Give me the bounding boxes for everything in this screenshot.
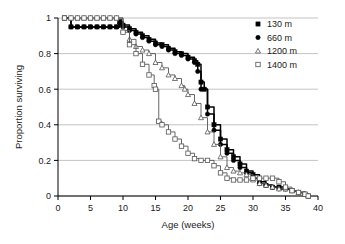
legend-marker-filled-square	[256, 22, 260, 26]
data-point	[199, 158, 203, 162]
legend-marker-filled-circle	[256, 35, 260, 39]
data-point	[88, 25, 92, 29]
legend-label: 1200 m	[267, 46, 297, 56]
data-point	[153, 43, 157, 47]
data-point	[251, 176, 255, 180]
x-tick-label-6: 30	[248, 203, 258, 213]
data-point	[166, 130, 170, 134]
data-point	[244, 178, 248, 182]
data-point	[205, 158, 209, 162]
data-point	[225, 176, 229, 180]
data-point	[153, 87, 157, 91]
data-point	[238, 165, 242, 169]
data-point	[147, 39, 151, 43]
data-point	[306, 194, 310, 198]
y-tick-label-2: 0.4	[38, 120, 51, 130]
data-point	[270, 176, 274, 180]
data-point	[186, 57, 190, 61]
data-point	[147, 73, 151, 77]
x-tick-label-7: 35	[280, 203, 290, 213]
data-point	[75, 16, 79, 20]
legend-label: 660 m	[267, 33, 292, 43]
data-point	[95, 25, 99, 29]
y-tick-label-0: 0	[46, 191, 51, 201]
data-point	[173, 51, 177, 55]
chart-canvas: 00.20.40.60.810510152025303540Age (weeks…	[0, 0, 345, 244]
data-point	[140, 62, 144, 66]
data-point	[121, 30, 125, 34]
data-point	[205, 112, 209, 116]
data-point	[127, 43, 131, 47]
data-point	[199, 87, 203, 91]
data-point	[212, 164, 216, 168]
data-point	[160, 123, 164, 127]
data-point	[257, 176, 261, 180]
data-point	[69, 25, 73, 29]
data-point	[108, 16, 112, 20]
data-point	[290, 188, 294, 192]
data-point	[238, 178, 242, 182]
x-tick-label-8: 40	[313, 203, 323, 213]
y-tick-label-5: 1	[46, 13, 51, 23]
chart-background	[0, 0, 345, 244]
data-point	[196, 69, 200, 73]
data-point	[114, 16, 118, 20]
y-axis-title: Proportion surviving	[13, 65, 24, 149]
data-point	[95, 16, 99, 20]
legend-label: 130 m	[267, 19, 292, 29]
survival-curve-figure: 00.20.40.60.810510152025303540Age (weeks…	[0, 0, 345, 244]
data-point	[88, 16, 92, 20]
data-point	[264, 176, 268, 180]
x-tick-label-1: 5	[88, 203, 93, 213]
data-point	[108, 25, 112, 29]
data-point	[82, 25, 86, 29]
data-point	[114, 25, 118, 29]
data-point	[134, 51, 138, 55]
data-point	[173, 137, 177, 141]
data-point	[101, 16, 105, 20]
data-point	[218, 171, 222, 175]
x-tick-label-0: 0	[55, 203, 60, 213]
data-point	[118, 21, 122, 25]
data-point	[69, 16, 73, 20]
data-point	[192, 156, 196, 160]
x-tick-label-5: 25	[215, 203, 225, 213]
data-point	[166, 48, 170, 52]
legend-marker-open-square	[256, 62, 260, 66]
data-point	[140, 35, 144, 39]
y-tick-label-1: 0.2	[38, 156, 51, 166]
data-point	[231, 178, 235, 182]
y-tick-label-3: 0.6	[38, 85, 51, 95]
data-point	[192, 60, 196, 64]
x-axis-title: Age (weeks)	[162, 219, 215, 230]
data-point	[179, 53, 183, 57]
data-point	[134, 32, 138, 36]
data-point	[277, 180, 281, 184]
x-tick-label-3: 15	[150, 203, 160, 213]
data-point	[296, 190, 300, 194]
x-tick-label-2: 10	[118, 203, 128, 213]
data-point	[62, 16, 66, 20]
y-tick-label-4: 0.8	[38, 49, 51, 59]
data-point	[179, 144, 183, 148]
data-point	[75, 25, 79, 29]
data-point	[231, 158, 235, 162]
data-point	[186, 151, 190, 155]
data-point	[283, 185, 287, 189]
data-point	[225, 151, 229, 155]
data-point	[160, 44, 164, 48]
legend-label: 1400 m	[267, 60, 297, 70]
data-point	[82, 16, 86, 20]
data-point	[101, 25, 105, 29]
x-tick-label-4: 20	[183, 203, 193, 213]
